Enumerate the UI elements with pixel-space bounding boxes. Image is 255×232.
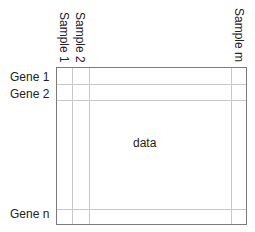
row-label-gene-1: Gene 1 [10,70,49,84]
grid-row-divider-2 [57,100,246,101]
grid-column-divider-2 [89,68,90,224]
column-label-sample-2: Sample 2 [73,12,87,63]
grid-row-divider-n [57,209,246,210]
grid-column-divider-m [231,68,232,224]
row-label-gene-n: Gene n [10,207,49,221]
row-label-gene-2: Gene 2 [10,87,49,101]
column-label-sample-1: Sample 1 [57,12,71,63]
column-label-sample-m: Sample m [232,8,246,62]
data-label: data [133,136,156,150]
grid-row-divider-1 [57,84,246,85]
grid-column-divider-1 [72,68,73,224]
